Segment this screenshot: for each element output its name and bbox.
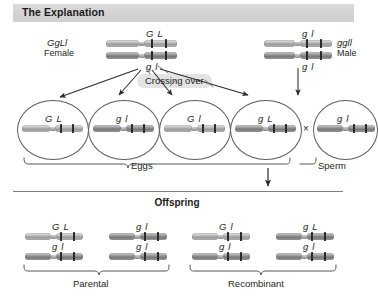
offspring-3-top-alleles: G l: [219, 221, 233, 232]
egg-1-chromosome: [22, 124, 83, 133]
chromosome-arm-left: [25, 253, 51, 260]
chromosome-arm-left: [106, 52, 139, 59]
offspring-4-chromosome-bottom: [276, 252, 334, 261]
allele-band-g: [306, 39, 308, 48]
allele-band-g: [60, 124, 62, 133]
crossing-over-label: Crossing over: [137, 74, 212, 88]
allele-band-g: [311, 232, 313, 241]
egg-2-chromosome: [93, 124, 154, 133]
offspring-4-chromosome-top: [276, 232, 334, 241]
male-sex-label: Male: [337, 48, 357, 58]
allele-band-l: [240, 232, 242, 241]
offspring-1-chromosome-bottom: [25, 252, 83, 261]
allele: G: [52, 221, 59, 232]
allele: l: [230, 221, 232, 232]
chromosome-arm-left: [264, 52, 295, 59]
egg-4-alleles: g L: [258, 113, 273, 124]
allele-band-l: [73, 232, 75, 241]
chromosome-arm-left: [22, 125, 50, 132]
parental-brace: [24, 265, 169, 275]
chromosome-arm-left: [106, 40, 139, 47]
allele-band-l: [165, 39, 167, 48]
allele: l: [125, 113, 127, 124]
female-chromosome-bottom: [106, 51, 177, 60]
allele: L: [157, 28, 162, 39]
offspring-2-bottom-alleles: g l: [136, 241, 147, 252]
egg-1-alleles: G L: [45, 113, 62, 124]
offspring-title: Offspring: [0, 197, 354, 208]
allele: L: [267, 113, 272, 124]
chromosome-arm-left: [264, 40, 295, 47]
allele-band-g: [227, 252, 229, 261]
recombinant-brace: [190, 265, 336, 275]
chromosome-arm-right: [144, 52, 177, 59]
page-title: The Explanation: [22, 6, 105, 18]
allele-band-g: [144, 252, 146, 261]
chromosome-arm-right: [144, 40, 177, 47]
allele: L: [56, 113, 61, 124]
offspring-2-top-alleles: g l: [136, 221, 147, 232]
female-genotype: GgLl: [47, 37, 67, 48]
offspring-4-bottom-alleles: g l: [303, 241, 314, 252]
egg-4-chromosome: [235, 124, 296, 133]
allele-band-l: [157, 252, 159, 261]
allele-band-l: [285, 124, 287, 133]
chromosome-arm-left: [109, 253, 135, 260]
eggs-brace: [24, 158, 290, 168]
allele-band-g: [273, 124, 275, 133]
allele: G: [187, 113, 194, 124]
allele: l: [346, 113, 348, 124]
male-genotype: ggll: [337, 37, 352, 48]
egg-3-chromosome: [164, 124, 225, 133]
chromosome-arm-left: [93, 125, 121, 132]
allele: G: [219, 221, 226, 232]
offspring-2-chromosome-bottom: [109, 252, 167, 261]
allele-band-g: [311, 252, 313, 261]
allele-band-g: [60, 252, 62, 261]
allele: L: [63, 221, 68, 232]
sperm-brace: [300, 158, 316, 164]
offspring-1-chromosome-top: [25, 232, 83, 241]
male-top-alleles: g l: [302, 28, 313, 39]
allele-band-l: [365, 124, 367, 133]
allele-band-l: [320, 39, 322, 48]
offspring-1-top-alleles: G L: [52, 221, 69, 232]
allele: l: [311, 28, 313, 39]
allele-band-l: [214, 124, 216, 133]
allele: l: [145, 241, 147, 252]
allele-band-g: [131, 124, 133, 133]
chromosome-arm-right: [300, 40, 332, 47]
chromosome-arm-left: [164, 125, 192, 132]
allele-band-g: [353, 124, 355, 133]
allele: l: [198, 113, 200, 124]
allele: G: [146, 28, 153, 39]
allele: l: [228, 241, 230, 252]
allele: l: [155, 61, 157, 72]
egg-2-alleles: g l: [116, 113, 127, 124]
chromosome-arm-left: [317, 125, 343, 132]
chromosome-arm-left: [276, 233, 302, 240]
chromosome-arm-left: [192, 253, 218, 260]
offspring-1-bottom-alleles: g l: [52, 241, 63, 252]
chromosome-arm-right: [300, 52, 332, 59]
allele-band-g: [306, 51, 308, 60]
allele-band-g: [227, 232, 229, 241]
egg-3-alleles: G l: [187, 113, 201, 124]
male-bottom-alleles: g l: [302, 61, 313, 72]
allele-band-l: [157, 232, 159, 241]
allele-band-g: [151, 51, 153, 60]
offspring-3-chromosome-bottom: [192, 252, 250, 261]
allele: L: [312, 221, 317, 232]
recombinant-group-label: Recombinant: [228, 278, 284, 289]
allele-band-l: [73, 252, 75, 261]
sperm-1-alleles: g l: [337, 113, 348, 124]
female-bottom-alleles: g l: [146, 61, 157, 72]
cross-symbol: ×: [303, 123, 309, 134]
parental-group-label: Parental: [73, 278, 108, 289]
allele-band-l: [143, 124, 145, 133]
allele-band-l: [320, 51, 322, 60]
chromosome-arm-left: [192, 233, 218, 240]
allele: G: [45, 113, 52, 124]
offspring-4-top-alleles: g L: [303, 221, 318, 232]
chromosome-arm-left: [25, 233, 51, 240]
